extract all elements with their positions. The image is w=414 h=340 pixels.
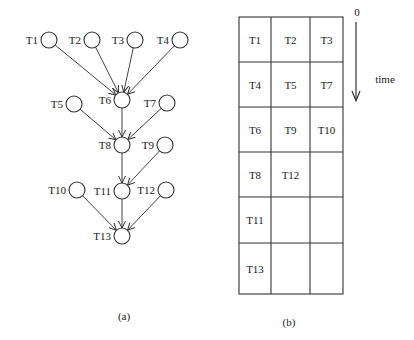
schedule-cell: T10 [318, 124, 336, 136]
time-axis: 0 time [352, 6, 395, 101]
edge-t7-t8 [128, 108, 161, 139]
node-label: T7 [144, 97, 157, 109]
schedule-cell: T7 [320, 79, 333, 91]
node-label: T10 [48, 184, 66, 196]
node-label: T8 [99, 139, 112, 151]
node-t4 [172, 32, 188, 48]
task-graph-edges [55, 45, 174, 230]
node-t12 [158, 182, 174, 198]
node-label: T12 [137, 184, 155, 196]
edge-t3-t6 [124, 48, 134, 92]
node-t8 [114, 137, 130, 153]
schedule-cell: T1 [249, 34, 261, 46]
node-label: T6 [99, 94, 112, 106]
time-label: time [375, 73, 395, 85]
node-t5 [66, 96, 82, 112]
edge-t5-t8 [80, 109, 116, 140]
table-border [239, 17, 343, 294]
edge-t9-t11 [127, 151, 159, 185]
schedule-cell: T9 [284, 124, 297, 136]
schedule-cell: T4 [249, 79, 262, 91]
node-label: T9 [142, 139, 155, 151]
edge-t12-t13 [128, 196, 161, 230]
node-label: T2 [69, 34, 81, 46]
schedule-cells: T1T2T3T4T5T7T6T9T10T8T12T11T13 [246, 34, 336, 275]
edge-t2-t6 [96, 47, 119, 93]
schedule-cell: T2 [284, 34, 296, 46]
node-label: T13 [93, 230, 111, 242]
schedule-table: T1T2T3T4T5T7T6T9T10T8T12T11T13 [239, 17, 343, 294]
node-t11 [114, 183, 130, 199]
schedule-cell: T3 [320, 34, 333, 46]
schedule-cell: T12 [282, 169, 300, 181]
node-t10 [69, 182, 85, 198]
node-label: T5 [51, 98, 64, 110]
schedule-cell: T11 [246, 214, 263, 226]
node-t13 [114, 228, 130, 244]
edge-t4-t6 [128, 46, 175, 94]
edge-t10-t13 [83, 196, 117, 231]
node-t3 [127, 32, 143, 48]
node-t1 [41, 32, 57, 48]
node-t9 [157, 137, 173, 153]
schedule-cell: T6 [249, 124, 262, 136]
schedule-cell: T5 [284, 79, 297, 91]
node-label: T3 [112, 34, 125, 46]
schedule-cell: T13 [246, 263, 264, 275]
time-start-label: 0 [354, 6, 360, 18]
caption-a: (a) [118, 310, 131, 323]
node-label: T11 [94, 185, 111, 197]
node-t2 [84, 32, 100, 48]
node-t7 [159, 95, 175, 111]
figure: T1T2T3T4T5T6T7T8T9T10T11T12T13 (a) T1T2T… [0, 0, 414, 340]
node-t6 [114, 92, 130, 108]
node-label: T4 [157, 34, 170, 46]
schedule-cell: T8 [249, 169, 262, 181]
caption-b: (b) [283, 316, 296, 329]
task-graph-nodes: T1T2T3T4T5T6T7T8T9T10T11T12T13 [26, 32, 188, 244]
node-label: T1 [26, 34, 38, 46]
